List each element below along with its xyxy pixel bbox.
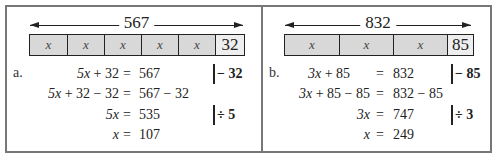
variable-cell: x — [105, 35, 142, 55]
total-value: 832 — [360, 13, 396, 33]
arrow-left-icon — [30, 22, 39, 28]
problem-a-panel: 567 x x x x x 32 a. 5x + 32 = 567 − 32 5… — [7, 7, 261, 151]
equation-step: x = 107 — [7, 125, 261, 144]
constant-cell: 32 — [216, 35, 244, 55]
operation-text: ÷ 3 — [455, 107, 473, 122]
constant-cell: 85 — [448, 35, 473, 55]
equation-step: x = 249 — [263, 125, 491, 144]
equation-rhs: 535 — [139, 105, 160, 124]
variable-cell: x — [179, 35, 216, 55]
total-arrow: 567 — [30, 19, 243, 31]
operation-bar — [213, 64, 215, 84]
equation-rhs: 567 − 32 — [139, 84, 189, 103]
total-arrow: 832 — [285, 19, 471, 31]
equals-sign: = — [121, 84, 133, 103]
variable-cell: x — [68, 35, 105, 55]
variable-cell: x — [30, 35, 68, 55]
equals-sign: = — [121, 64, 133, 83]
equals-sign: = — [121, 125, 133, 144]
equation-lhs: 3x — [357, 105, 370, 124]
operation-text: ÷ 5 — [217, 107, 235, 122]
equation-lhs: 3x + 85 − 85 — [299, 84, 370, 103]
variable-cell: x — [340, 35, 394, 55]
equation-rhs: 107 — [139, 125, 160, 144]
equation-rhs: 832 — [393, 64, 414, 83]
equation-step: 5x + 32 − 32 = 567 − 32 — [7, 84, 261, 103]
arrow-right-icon — [234, 22, 243, 28]
arrow-left-icon — [285, 22, 294, 28]
problem-b-panel: 832 x x x 85 b. 3x + 85 = 832 − 85 3x + … — [263, 7, 491, 151]
operation-annotation: ÷ 3 — [451, 105, 473, 124]
equation-lhs: x — [113, 125, 119, 144]
equals-sign: = — [374, 64, 386, 83]
variable-cell: x — [285, 35, 340, 55]
arrow-right-icon — [462, 22, 471, 28]
equation-rhs: 567 — [139, 64, 160, 83]
operation-annotation: ÷ 5 — [213, 105, 235, 124]
operation-bar — [451, 64, 453, 84]
equals-sign: = — [121, 105, 133, 124]
equation-lhs: 5x + 32 − 32 — [48, 84, 119, 103]
variable-cell: x — [142, 35, 179, 55]
bar-model: x x x 85 — [284, 34, 474, 56]
equation-lhs: x — [364, 125, 370, 144]
equals-sign: = — [374, 125, 386, 144]
variable-cell: x — [394, 35, 448, 55]
equation-rhs: 249 — [393, 125, 414, 144]
equation-lhs: 5x + 32 — [77, 64, 119, 83]
operation-annotation: − 32 — [213, 64, 242, 83]
operation-text: − 85 — [455, 66, 480, 81]
equation-step: 3x + 85 − 85 = 832 − 85 — [263, 84, 491, 103]
equation-lhs: 3x + 85 — [308, 64, 350, 83]
operation-annotation: − 85 — [451, 64, 480, 83]
equation-rhs: 747 — [393, 105, 414, 124]
operation-bar — [213, 105, 215, 125]
bar-model: x x x x x 32 — [29, 34, 245, 56]
equation-rhs: 832 − 85 — [393, 84, 443, 103]
operation-bar — [451, 105, 453, 125]
operation-text: − 32 — [217, 66, 242, 81]
equals-sign: = — [374, 105, 386, 124]
total-value: 567 — [119, 13, 155, 33]
equals-sign: = — [374, 84, 386, 103]
equation-lhs: 5x — [106, 105, 119, 124]
